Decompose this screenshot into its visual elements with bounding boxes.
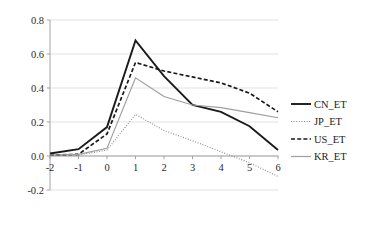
x-tick-label: 6 [275, 162, 280, 173]
legend-label: US_ET [314, 134, 346, 145]
line-chart: 0.80.60.40.20.0-0.2 -2-10123456 CN_ETJP_… [0, 0, 378, 227]
y-tick-label: 0.0 [31, 151, 44, 162]
legend-label: KR_ET [314, 151, 347, 162]
x-tick-label: 3 [190, 162, 195, 173]
legend-item-cn_et[interactable]: CN_ET [291, 99, 347, 110]
y-tick-labels-group: 0.80.60.40.20.0-0.2 [27, 15, 44, 196]
legend-item-jp_et[interactable]: JP_ET [291, 116, 343, 127]
x-tick-label: -1 [74, 162, 83, 173]
legend-label: JP_ET [314, 116, 343, 127]
legend-label: CN_ET [314, 99, 347, 110]
x-tick-label: 4 [218, 162, 224, 173]
x-tick-labels-group: -2-10123456 [46, 162, 281, 173]
legend-item-kr_et[interactable]: KR_ET [291, 151, 347, 162]
chart-canvas: 0.80.60.40.20.0-0.2 -2-10123456 CN_ETJP_… [0, 0, 378, 227]
y-tick-label: 0.4 [31, 83, 45, 94]
x-tick-label: 2 [161, 162, 166, 173]
x-tick-label: 1 [133, 162, 138, 173]
legend-group: CN_ETJP_ETUS_ETKR_ET [291, 99, 347, 163]
y-tick-label: -0.2 [27, 185, 44, 196]
x-tick-label: 0 [104, 162, 109, 173]
x-tick-label: -2 [46, 162, 55, 173]
y-tick-label: 0.2 [31, 117, 44, 128]
series-line-kr_et [50, 78, 278, 155]
legend-item-us_et[interactable]: US_ET [291, 134, 346, 145]
y-tick-label: 0.6 [31, 49, 44, 60]
y-tick-label: 0.8 [31, 15, 44, 26]
